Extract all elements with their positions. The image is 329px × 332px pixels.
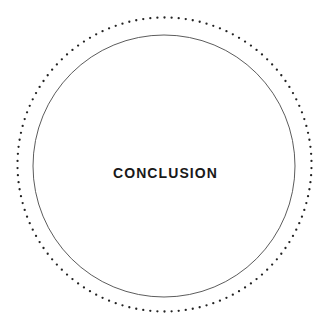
ring-dot xyxy=(238,290,240,292)
ring-dot xyxy=(47,74,49,76)
ring-dot xyxy=(244,40,246,42)
ring-dot xyxy=(108,27,110,29)
ring-dot xyxy=(266,58,268,60)
ring-dot xyxy=(185,18,187,20)
ring-dot xyxy=(276,69,278,71)
ring-dot xyxy=(61,58,63,60)
ring-dot xyxy=(310,160,312,162)
ring-dot xyxy=(310,153,312,155)
ring-dot xyxy=(310,174,312,176)
ring-dot xyxy=(71,49,73,51)
ring-dot xyxy=(51,258,53,260)
solid-circle xyxy=(33,35,295,297)
ring-dot xyxy=(20,195,22,197)
ring-dot xyxy=(22,202,24,204)
ring-dot xyxy=(280,74,282,76)
ring-dot xyxy=(255,278,257,280)
ring-dot xyxy=(142,18,144,20)
ring-dot xyxy=(308,139,310,141)
ring-dot xyxy=(83,40,85,42)
ring-dot xyxy=(35,92,37,94)
ring-dot xyxy=(288,241,290,243)
ring-dot xyxy=(77,44,79,46)
ring-dot xyxy=(199,306,201,308)
ring-dot xyxy=(56,63,58,65)
ring-dot xyxy=(288,86,290,88)
ring-dot xyxy=(17,181,19,183)
ring-dot xyxy=(66,273,68,275)
ring-dot xyxy=(38,241,40,243)
ring-dot xyxy=(301,215,303,217)
ring-dot xyxy=(24,118,26,120)
ring-dot xyxy=(163,16,165,18)
ring-dot xyxy=(305,202,307,204)
ring-dot xyxy=(185,309,187,311)
ring-dot xyxy=(17,174,19,176)
ring-dot xyxy=(310,167,312,169)
ring-dot xyxy=(276,258,278,260)
ring-dot xyxy=(142,309,144,311)
ring-dot xyxy=(308,188,310,190)
dotted-ring xyxy=(16,16,312,312)
ring-dot xyxy=(38,86,40,88)
ring-dot xyxy=(212,25,214,27)
ring-dot xyxy=(95,294,97,296)
ring-dot xyxy=(192,308,194,310)
ring-dot xyxy=(16,167,18,169)
ring-dot xyxy=(29,222,31,224)
ring-dot xyxy=(71,278,73,280)
ring-dot xyxy=(199,21,201,23)
ring-dot xyxy=(95,33,97,35)
ring-dot xyxy=(305,125,307,127)
ring-dot xyxy=(29,105,31,107)
ring-dot xyxy=(292,92,294,94)
ring-dot xyxy=(307,132,309,134)
ring-dot xyxy=(192,19,194,21)
ring-dot xyxy=(205,22,207,24)
ring-dot xyxy=(101,297,103,299)
ring-dot xyxy=(32,229,34,231)
ring-dot xyxy=(42,247,44,249)
ring-dot xyxy=(295,98,297,100)
ring-dot xyxy=(280,253,282,255)
ring-dot xyxy=(17,146,19,148)
ring-dot xyxy=(238,37,240,39)
ring-dot xyxy=(232,294,234,296)
ring-dot xyxy=(266,269,268,271)
ring-dot xyxy=(156,17,158,19)
ring-dot xyxy=(250,282,252,284)
ring-dot xyxy=(101,30,103,32)
ring-dot xyxy=(255,49,257,51)
ring-dot xyxy=(77,282,79,284)
ring-dot xyxy=(26,111,28,113)
ring-dot xyxy=(35,235,37,237)
ring-dot xyxy=(219,27,221,29)
ring-dot xyxy=(149,310,151,312)
ring-dot xyxy=(135,308,137,310)
ring-dot xyxy=(271,263,273,265)
ring-dot xyxy=(115,25,117,27)
ring-dot xyxy=(178,310,180,312)
ring-dot xyxy=(301,111,303,113)
ring-dot xyxy=(22,125,24,127)
ring-dot xyxy=(83,286,85,288)
ring-dot xyxy=(298,105,300,107)
ring-dot xyxy=(250,44,252,46)
ring-dot xyxy=(163,310,165,312)
ring-dot xyxy=(303,209,305,211)
ring-dot xyxy=(298,222,300,224)
ring-dot xyxy=(51,69,53,71)
ring-dot xyxy=(47,253,49,255)
ring-dot xyxy=(292,235,294,237)
ring-dot xyxy=(89,290,91,292)
ring-dot xyxy=(89,37,91,39)
ring-dot xyxy=(121,304,123,306)
ring-dot xyxy=(66,53,68,55)
ring-dot xyxy=(115,302,117,304)
ring-dot xyxy=(309,181,311,183)
ring-dot xyxy=(56,263,58,265)
ring-dot xyxy=(149,17,151,19)
ring-dot xyxy=(205,304,207,306)
ring-dot xyxy=(18,188,20,190)
ring-dot xyxy=(61,269,63,271)
